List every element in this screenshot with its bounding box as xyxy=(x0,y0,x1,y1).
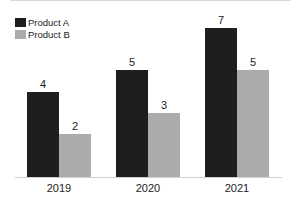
bar-product-b-2020 xyxy=(148,113,180,177)
bar-product-b-2021 xyxy=(237,70,269,177)
x-tick-label: 2020 xyxy=(115,182,181,194)
data-label: 2 xyxy=(59,120,91,132)
bar-product-a-2019 xyxy=(27,92,59,177)
bar-product-a-2021 xyxy=(205,28,237,177)
data-label: 5 xyxy=(237,56,269,68)
data-label: 4 xyxy=(27,78,59,90)
x-axis-line xyxy=(15,177,282,178)
bar-product-b-2019 xyxy=(59,134,91,177)
data-label: 5 xyxy=(116,56,148,68)
x-tick-label: 2019 xyxy=(26,182,92,194)
bar-product-a-2020 xyxy=(116,70,148,177)
data-label: 3 xyxy=(148,99,180,111)
data-label: 7 xyxy=(205,14,237,26)
x-tick-label: 2021 xyxy=(204,182,270,194)
